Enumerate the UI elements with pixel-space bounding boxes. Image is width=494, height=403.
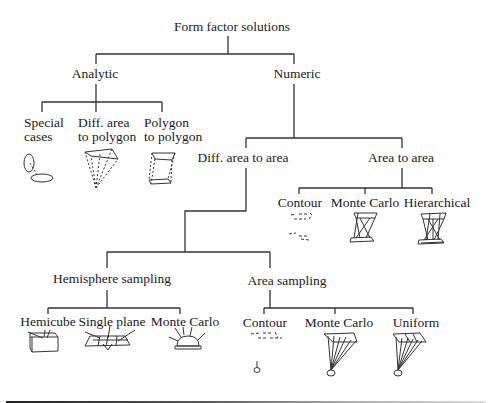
connector-analytic xyxy=(42,84,162,112)
node-ata-monte-carlo: Monte Carlo xyxy=(331,196,400,210)
node-root: Form factor solutions xyxy=(174,20,290,34)
node-hs-monte-carlo: Monte Carlo xyxy=(151,315,220,329)
node-hemicube: Hemicube xyxy=(20,315,75,329)
node-ata-hierarchical: Hierarchical xyxy=(404,196,471,210)
diff-area-to-polygon-icon xyxy=(85,149,118,188)
connector-numeric xyxy=(246,84,402,148)
connector-root xyxy=(96,36,294,64)
node-area-to-area: Area to area xyxy=(368,151,434,165)
hs-monte-carlo-icon xyxy=(169,327,205,349)
node-as-uniform: Uniform xyxy=(393,316,440,330)
as-contour-icon xyxy=(251,332,282,373)
node-ata-contour: Contour xyxy=(278,196,322,210)
ata-contour-icon xyxy=(289,213,312,240)
node-diff-area-to-area: Diff. area to area xyxy=(197,151,288,165)
hemicube-icon xyxy=(28,330,58,352)
special-cases-line2: cases xyxy=(24,130,64,144)
diff-area-to-polygon-line2: to polygon xyxy=(78,130,136,144)
polygon-to-polygon-icon xyxy=(149,153,175,184)
polygon-to-polygon-line1: Polygon xyxy=(144,116,202,130)
connector-area-to-area xyxy=(299,168,432,194)
diff-area-to-polygon-line1: Diff. area xyxy=(78,116,136,130)
node-numeric: Numeric xyxy=(273,67,320,81)
node-area-sampling: Area sampling xyxy=(247,274,326,288)
node-analytic: Analytic xyxy=(72,67,119,81)
node-hemisphere-sampling: Hemisphere sampling xyxy=(53,272,171,286)
node-single-plane: Single plane xyxy=(78,315,145,329)
special-cases-icon xyxy=(24,154,53,182)
node-polygon-to-polygon: Polygon to polygon xyxy=(144,116,202,144)
connector-area-sampling xyxy=(264,290,413,314)
special-cases-line1: Special xyxy=(24,116,64,130)
as-monte-carlo-icon xyxy=(324,333,357,376)
node-as-monte-carlo: Monte Carlo xyxy=(305,316,374,330)
connector-hemisphere-sampling xyxy=(48,290,180,314)
polygon-to-polygon-line2: to polygon xyxy=(144,130,202,144)
hierarchical-icon xyxy=(418,213,446,244)
node-as-contour: Contour xyxy=(243,316,287,330)
node-diff-area-to-polygon: Diff. area to polygon xyxy=(78,116,136,144)
ata-monte-carlo-icon xyxy=(350,213,377,242)
single-plane-icon xyxy=(85,326,135,350)
node-special-cases: Special cases xyxy=(24,116,64,144)
as-uniform-icon xyxy=(393,333,426,376)
connector-diff-area-to-area xyxy=(107,168,270,268)
